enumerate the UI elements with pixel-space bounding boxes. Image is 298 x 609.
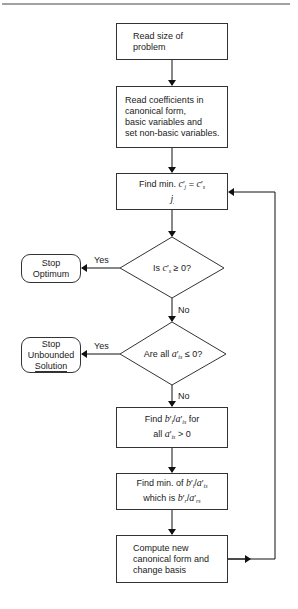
stop-optimum-terminal: Stop Optimum — [21, 254, 81, 283]
decision-are-all-label: Are all a′is ≤ 0? — [128, 348, 218, 363]
yes-label-1: Yes — [94, 255, 109, 265]
stop-unbounded-line-3: Solution — [35, 361, 68, 372]
find-ratios-line-1: Find b′i/a′is for — [145, 413, 200, 428]
find-min-cj-text: Find min. c′j = c′s — [139, 178, 205, 193]
no-label-1: No — [178, 305, 190, 315]
compute-new-line-3: change basis — [133, 565, 227, 576]
find-min-ratio-box: Find min. of b′i/a′is which is b′r/a′rs — [116, 473, 228, 510]
find-min-ratio-line-1: Find min. of b′i/a′is — [136, 477, 207, 492]
read-coeff-line-3: basic variables and — [125, 117, 227, 128]
find-ratios-box: Find b′i/a′is for all a′is > 0 — [116, 407, 228, 448]
find-ratios-line-2: all a′is > 0 — [153, 428, 190, 443]
read-size-box: Read size of problem — [116, 23, 228, 60]
stop-optimum-line-2: Optimum — [33, 269, 70, 280]
read-size-line-1: Read size of — [133, 31, 227, 42]
read-coeff-line-4: set non-basic variables. — [125, 128, 227, 139]
compute-new-line-2: canonical form and — [133, 554, 227, 565]
read-coeff-line-1: Read coefficients in — [125, 95, 227, 106]
stop-unbounded-terminal: Stop Unbounded Solution — [21, 337, 81, 373]
stop-unbounded-line-1: Stop — [42, 339, 61, 350]
compute-new-line-1: Compute new — [133, 543, 227, 554]
find-min-ratio-line-2: which is b′r/a′rs — [143, 492, 200, 507]
read-size-line-2: problem — [133, 42, 227, 53]
compute-new-form-box: Compute new canonical form and change ba… — [116, 535, 228, 583]
read-coeff-line-2: canonical form, — [125, 106, 227, 117]
read-coefficients-box: Read coefficients in canonical form, bas… — [116, 86, 228, 148]
stop-unbounded-line-2: Unbounded — [28, 350, 75, 361]
find-min-cj-index: j — [171, 193, 174, 205]
find-min-cj-box: Find min. c′j = c′s j — [116, 173, 228, 210]
stop-optimum-line-1: Stop — [42, 258, 61, 269]
loop-back-line — [228, 192, 275, 559]
no-label-2: No — [178, 391, 190, 401]
decision-is-cs-label: Is c′s ≥ 0? — [132, 262, 212, 277]
yes-label-2: Yes — [94, 341, 109, 351]
